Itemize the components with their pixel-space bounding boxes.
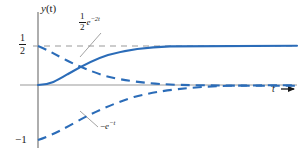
annotation-exponential-decay: e−2t xyxy=(87,18,100,27)
curve-minus-exp xyxy=(38,85,297,140)
fraction-numerator: 1 xyxy=(19,33,26,44)
y-axis-label: y(t) xyxy=(41,3,56,14)
leader-line-decay xyxy=(80,33,101,57)
annotation-half-exp-minus-2t: 1 2 e−2t xyxy=(79,12,100,33)
annotation-fraction-one-half: 1 2 xyxy=(79,12,86,33)
figure-container: y(t) t 1 2 −1 1 2 e−2t −e−t xyxy=(0,0,303,163)
annotation-fraction-numerator: 1 xyxy=(79,12,86,21)
annotation-exponent: −2t xyxy=(91,15,100,22)
annotation-exponent-2: −t xyxy=(109,119,115,126)
y-axis-label-arg: (t) xyxy=(46,2,56,14)
fraction-denominator: 2 xyxy=(19,46,26,57)
plot-canvas xyxy=(0,0,303,163)
curve-half-exp-decay xyxy=(38,46,297,86)
y-tick-label-one-half: 1 2 xyxy=(19,33,26,56)
x-axis-label-var: t xyxy=(272,83,275,94)
x-axis-label: t xyxy=(272,84,275,94)
annotation-fraction-denominator: 2 xyxy=(79,23,86,32)
annotation-minus-exp-minus-t: −e−t xyxy=(100,122,115,131)
y-tick-label-minus-one: −1 xyxy=(15,134,27,145)
curve-solution-solid xyxy=(38,46,297,85)
fraction-one-half: 1 2 xyxy=(19,33,26,56)
